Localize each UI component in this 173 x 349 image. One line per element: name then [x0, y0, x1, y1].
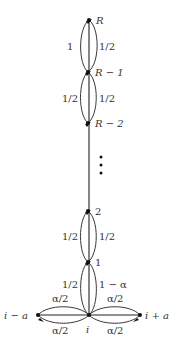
node-r-minus-2 [86, 121, 90, 125]
ellipsis-dot [100, 156, 103, 159]
edge-label: 1/2 [99, 41, 115, 52]
label-1: 1 [95, 257, 101, 268]
edge-r2-to-r1 [81, 72, 89, 123]
label-2: 2 [95, 206, 101, 217]
edge-label: α/2 [107, 325, 123, 336]
edge-label: 1/2 [62, 93, 78, 104]
label-i-minus-a: i − a [4, 310, 28, 321]
label-i: i [86, 324, 89, 335]
node-1 [86, 260, 90, 264]
node-2 [86, 209, 90, 213]
label-r-minus-2: R − 2 [94, 118, 124, 129]
ellipsis-dot [100, 172, 103, 175]
node-i [87, 313, 91, 317]
node-i-plus-a [138, 313, 142, 317]
edge-label: α/2 [52, 293, 68, 304]
edge-label: 1/2 [62, 231, 78, 242]
edge-i-to-i-minus-a [38, 307, 89, 315]
markov-chain-diagram: R R − 1 R − 2 2 1 i i − a i + a 1 1/2 1/… [0, 0, 173, 349]
edge-label: 1/2 [62, 279, 78, 290]
edge-r1-to-r [81, 20, 89, 72]
edge-label: α/2 [52, 325, 68, 336]
ellipsis-dot [100, 164, 103, 167]
node-i-minus-a [36, 313, 40, 317]
node-r-minus-1 [86, 70, 90, 74]
edge-label: 1/2 [99, 231, 115, 242]
label-r-minus-1: R − 1 [94, 67, 124, 78]
label-r: R [95, 15, 104, 26]
edge-1-to-2 [81, 211, 89, 262]
label-i-plus-a: i + a [145, 310, 169, 321]
edge-i-to-i-plus-a [89, 307, 140, 315]
edge-label: 1/2 [99, 93, 115, 104]
edge-label: 1 − α [99, 279, 127, 290]
edge-label: 1 [67, 41, 73, 52]
edge-label: α/2 [107, 293, 123, 304]
edge-i-plus-a-to-i [89, 315, 140, 323]
edge-i-to-1 [81, 262, 89, 315]
node-r [87, 18, 91, 22]
edge-i-minus-a-to-i [38, 315, 89, 323]
